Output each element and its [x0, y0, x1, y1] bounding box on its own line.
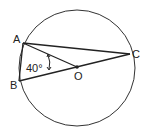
segment-ac — [23, 43, 130, 54]
geometry-diagram: A B C O 40° — [0, 0, 147, 136]
center-point-o — [75, 65, 79, 69]
label-o: O — [74, 70, 83, 82]
label-c: C — [132, 48, 140, 60]
label-a: A — [13, 33, 21, 45]
angle-label: 40° — [26, 62, 43, 74]
label-b: B — [10, 79, 17, 91]
